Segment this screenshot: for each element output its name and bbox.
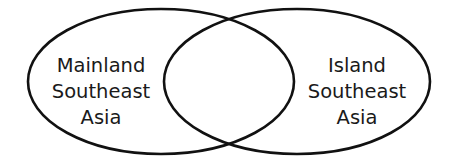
island-label-line-3: Asia [337,106,378,129]
island-label: Island Southeast Asia [308,54,407,129]
venn-diagram: Mainland Southeast Asia Island Southeast… [0,0,449,163]
mainland-label-line-1: Mainland [57,54,146,77]
mainland-label-line-3: Asia [81,106,122,129]
mainland-label: Mainland Southeast Asia [52,54,151,129]
island-label-line-1: Island [328,54,386,77]
mainland-label-line-2: Southeast [52,80,151,103]
island-label-line-2: Southeast [308,80,407,103]
